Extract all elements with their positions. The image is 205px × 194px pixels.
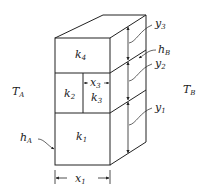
label-TA: TA [12, 85, 24, 99]
label-hA: hA [20, 131, 32, 145]
y1-leader [129, 108, 152, 125]
hA-leader [38, 139, 54, 149]
label-k3: k3 [91, 91, 103, 105]
label-x1: x1 [75, 172, 86, 186]
label-y1: y1 [154, 101, 166, 115]
label-k4: k4 [75, 48, 86, 62]
top-face [55, 15, 146, 38]
hB-leader [139, 50, 156, 58]
y3-leader [129, 25, 152, 43]
y2-leader [129, 64, 152, 81]
label-k1: k1 [76, 130, 87, 144]
composite-wall-diagram: k4 k2 k3 k1 x3 x1 y3 hB y2 y1 TA TB hA [0, 0, 205, 194]
label-k2: k2 [64, 87, 76, 101]
label-x3: x3 [90, 76, 101, 90]
label-hB: hB [158, 43, 170, 57]
label-y3: y3 [154, 17, 166, 31]
label-y2: y2 [154, 57, 166, 71]
label-TB: TB [183, 83, 196, 97]
